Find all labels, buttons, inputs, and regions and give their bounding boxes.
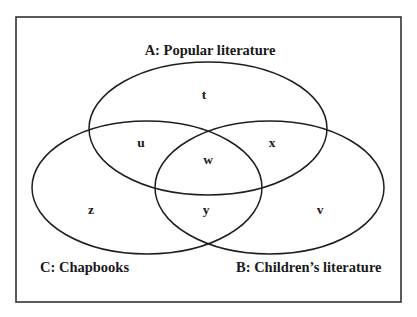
set-c-label: C: Chapbooks [40,259,129,275]
region-w-label: w [203,152,213,167]
set-a-label: A: Popular literature [145,42,276,58]
region-y-label: y [203,202,210,217]
venn-diagram: A: Popular literature C: Chapbooks B: Ch… [0,0,417,317]
set-b-label: B: Children’s literature [236,259,382,275]
region-t-label: t [202,87,207,102]
region-x-label: x [269,135,276,150]
region-z-label: z [88,202,94,217]
set-a-ellipse [89,62,327,195]
region-v-label: v [317,202,324,217]
set-c-ellipse [32,121,262,254]
region-u-label: u [137,135,145,150]
